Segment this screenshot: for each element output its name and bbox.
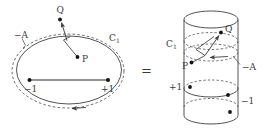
figure-svg: −1 +1 −A C1 P Q = bbox=[0, 0, 270, 132]
level-plus-1-dot bbox=[188, 85, 192, 89]
equals-symbol: = bbox=[141, 63, 152, 78]
point-P-dot-right bbox=[190, 61, 194, 65]
cylinder-mid-ring-front bbox=[184, 89, 238, 97]
label-Q-right: Q bbox=[225, 24, 232, 34]
point-Q-dot-right bbox=[219, 31, 223, 35]
label-minus-1-left: −1 bbox=[24, 84, 37, 94]
label-plus-1-left: +1 bbox=[101, 84, 114, 94]
cylinder-bottom-ring-back bbox=[184, 99, 238, 107]
arrow-to-Q-left bbox=[62, 23, 68, 41]
cylinder-mid-ring-back bbox=[184, 80, 238, 88]
path-P-to-Q-right bbox=[192, 37, 214, 63]
minus-A-leader-line-right bbox=[233, 56, 240, 65]
branch-point-minus-1-dot bbox=[28, 78, 32, 82]
bottom-ring-dot bbox=[228, 110, 232, 114]
level-minus-1-dot bbox=[226, 93, 230, 97]
figure-container: −1 +1 −A C1 P Q = bbox=[0, 0, 270, 132]
label-minus-A-right: −A bbox=[242, 62, 257, 72]
label-plus-1-right: +1 bbox=[169, 82, 182, 92]
right-cylinder: C1 −A +1 −1 P Q bbox=[166, 11, 257, 124]
point-P-dot-left bbox=[76, 55, 80, 59]
label-contour-C1-right: C1 bbox=[166, 39, 177, 50]
label-minus-A-left: −A bbox=[14, 30, 29, 40]
arrow-to-Q-right bbox=[205, 36, 219, 56]
label-P-right: P bbox=[182, 61, 188, 71]
path-P-to-crossing bbox=[64, 37, 78, 57]
cylinder-bottom-cap-front bbox=[184, 116, 238, 124]
point-Q-dot-left bbox=[58, 18, 62, 22]
label-P-left: P bbox=[82, 54, 88, 64]
label-contour-C1-left: C1 bbox=[109, 33, 120, 44]
branch-point-plus-1-dot bbox=[106, 78, 110, 82]
label-Q-left: Q bbox=[57, 5, 64, 15]
left-plane-contour: −1 +1 −A C1 P Q bbox=[12, 5, 124, 109]
ring-orientation-arrow bbox=[210, 57, 228, 58]
label-minus-1-right: −1 bbox=[241, 96, 254, 106]
